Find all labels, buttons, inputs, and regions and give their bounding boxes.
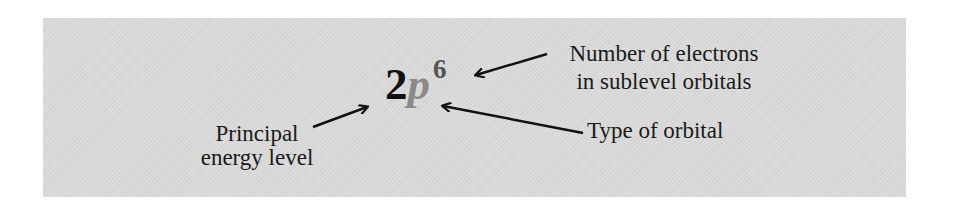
arrow-to-electron-count xyxy=(476,54,547,75)
arrow-to-orbital-type xyxy=(443,106,583,133)
annotation-arrows xyxy=(0,0,953,215)
arrow-to-principal-level xyxy=(313,107,367,127)
